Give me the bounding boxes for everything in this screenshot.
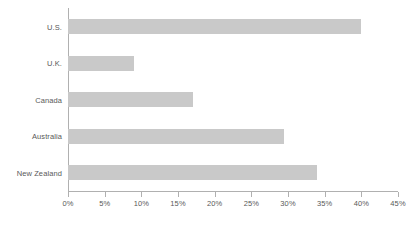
category-label: Australia <box>2 132 62 141</box>
bar <box>68 165 317 180</box>
x-axis-tick-label: 10% <box>121 199 161 208</box>
bar-row <box>68 118 398 155</box>
x-axis-tick <box>215 192 216 197</box>
bar-chart: U.S.U.K.CanadaAustraliaNew Zealand 0%5%1… <box>0 0 420 226</box>
x-axis-tick-label: 30% <box>268 199 308 208</box>
x-axis-tick <box>105 192 106 197</box>
bars-layer <box>68 8 398 191</box>
x-axis-tick-label: 40% <box>341 199 381 208</box>
x-axis-tick-label: 0% <box>48 199 88 208</box>
x-axis-tick <box>325 192 326 197</box>
x-axis-tick-label: 20% <box>195 199 235 208</box>
x-axis-tick-label: 25% <box>231 199 271 208</box>
category-label: New Zealand <box>2 169 62 178</box>
category-label: Canada <box>2 96 62 105</box>
bar-row <box>68 81 398 118</box>
x-axis-tick-label: 45% <box>378 199 418 208</box>
x-axis-tick <box>361 192 362 197</box>
category-label: U.S. <box>2 23 62 32</box>
bar <box>68 129 284 144</box>
x-axis-tick-label: 15% <box>158 199 198 208</box>
bar-row <box>68 154 398 191</box>
x-axis-tick <box>251 192 252 197</box>
bar <box>68 19 361 34</box>
x-axis-tick-label: 5% <box>85 199 125 208</box>
x-axis-tick <box>288 192 289 197</box>
x-axis-line <box>68 191 398 192</box>
bar-row <box>68 45 398 82</box>
bar <box>68 92 193 107</box>
category-label: U.K. <box>2 59 62 68</box>
x-axis-tick <box>68 192 69 197</box>
bar <box>68 56 134 71</box>
x-axis-tick <box>178 192 179 197</box>
x-axis-tick <box>141 192 142 197</box>
bar-row <box>68 8 398 45</box>
x-axis-tick-label: 35% <box>305 199 345 208</box>
x-axis-tick <box>398 192 399 197</box>
